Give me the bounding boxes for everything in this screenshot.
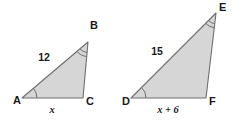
vertex-label-a: A bbox=[13, 94, 21, 106]
vertex-label-c: C bbox=[86, 95, 94, 107]
side-label-df: x + 6 bbox=[156, 104, 179, 115]
side-label-de: 15 bbox=[151, 45, 163, 57]
triangle-abc: A B C 12 x bbox=[13, 19, 98, 115]
side-label-ac: x bbox=[48, 104, 54, 115]
geometry-diagram: A B C 12 x D E F 15 x + 6 bbox=[0, 0, 247, 124]
vertex-label-f: F bbox=[209, 95, 216, 107]
vertex-label-d: D bbox=[122, 95, 130, 107]
vertex-label-b: B bbox=[90, 19, 98, 31]
triangle-def-shape bbox=[131, 13, 216, 98]
triangle-abc-shape bbox=[22, 42, 88, 98]
vertex-label-e: E bbox=[219, 1, 226, 13]
side-label-ab: 12 bbox=[38, 51, 50, 63]
triangle-def: D E F 15 x + 6 bbox=[122, 1, 226, 115]
geometry-figure: A B C 12 x D E F 15 x + 6 bbox=[0, 0, 247, 124]
